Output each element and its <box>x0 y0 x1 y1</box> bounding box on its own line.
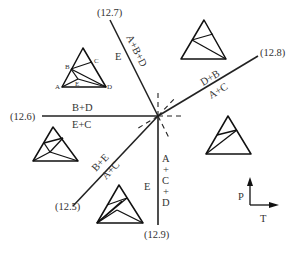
assemblage-triangle-left <box>33 127 78 161</box>
reaction-line-12-8 <box>158 56 258 116</box>
triangle-outline <box>33 127 78 161</box>
reaction-label-12-9: (12.9) <box>144 229 170 241</box>
tie-line <box>44 143 50 152</box>
p-arrow-icon <box>247 177 253 186</box>
t-arrow-icon <box>269 202 279 208</box>
point-label-b: B <box>65 63 70 71</box>
reaction-12-9-side-a: E <box>144 181 150 192</box>
reaction-12-9-side-b-part: + <box>163 164 169 175</box>
point-label-a: A <box>55 83 60 91</box>
point-label-d: D <box>107 83 112 91</box>
reaction-12-6-side-b: E+C <box>72 119 91 130</box>
point-label-c: C <box>94 57 99 65</box>
reaction-label-12-5: (12.5) <box>55 201 81 213</box>
reference-triangle: A B C D E <box>55 48 112 91</box>
reaction-12-7-side-b: A+B+D <box>124 33 149 69</box>
reaction-12-9-side-b-part: D <box>162 197 170 208</box>
reaction-12-9-side-b-part: + <box>163 186 169 197</box>
reaction-12-6-side-a: B+D <box>72 102 93 113</box>
reaction-12-7-side-a: E <box>115 51 121 62</box>
point-label-e: E <box>75 80 79 88</box>
reaction-label-12-6: (12.6) <box>10 111 36 123</box>
assemblage-triangle-lower-center <box>97 185 143 223</box>
t-axis-label: T <box>260 213 267 224</box>
reaction-12-9-side-b-part: C <box>162 175 169 186</box>
pt-axes: P T <box>238 177 279 224</box>
reaction-label-12-7: (12.7) <box>97 7 123 19</box>
reaction-label-12-8: (12.8) <box>260 47 286 59</box>
reaction-12-9-side-b-part: A <box>162 153 170 164</box>
assemblage-triangle-upper-right <box>181 20 226 59</box>
triangle-outline <box>181 20 226 59</box>
p-axis-label: P <box>238 191 244 202</box>
phase-diagram: (12.7) (12.8) (12.6) (12.5) (12.9) E A+B… <box>0 0 301 256</box>
assemblage-triangle-right <box>206 116 251 154</box>
metastable-extension-12-7 <box>158 116 170 140</box>
reaction-12-9-side-b: A + C + D <box>162 153 170 208</box>
